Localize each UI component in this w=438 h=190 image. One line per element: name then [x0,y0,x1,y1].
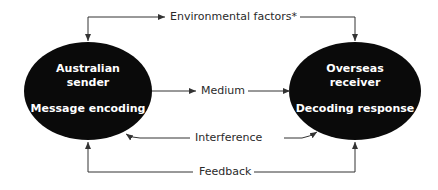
medium-label: Medium [198,84,248,97]
receiver-title-line1: Overseas [289,62,421,76]
interference-label: Interference [192,131,265,144]
sender-title-line2: sender [24,76,152,90]
sender-title-line1: Australian [24,62,152,76]
sender-node-text: Australian sender Message encoding [24,62,152,116]
receiver-node-text: Overseas receiver Decoding response [289,62,421,116]
receiver-title-line2: receiver [289,76,421,90]
sender-subtitle: Message encoding [24,102,152,116]
environmental-factors-label: Environmental factors* [167,10,300,23]
feedback-label: Feedback [196,165,254,178]
receiver-subtitle: Decoding response [289,102,421,116]
